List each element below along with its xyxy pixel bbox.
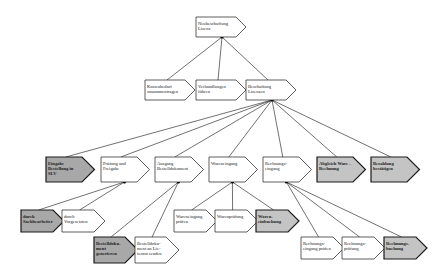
node-label-line: Bestelldokument [157, 166, 189, 171]
connector-ausgang-bestelldok_gen [111, 182, 178, 237]
node-label-line: Bestelldoku- [137, 241, 161, 246]
connector-beschaff-bezahlung [272, 100, 391, 157]
node-label-line: Waren- [258, 214, 273, 219]
function-tree-diagram: NeubeschaffungLizenzKostenbedarfzusammen… [0, 0, 445, 268]
node-re_pruefung[interactable]: Rechnungs-prüfung [342, 237, 385, 259]
connector-rechnungseingang-re_pruefung [286, 182, 359, 237]
node-label-line: Vorgesetzten [64, 219, 88, 224]
node-label-line: Neubeschaffung [198, 21, 229, 26]
node-root[interactable]: NeubeschaffungLizenz [196, 17, 246, 37]
node-label-line: durch [23, 214, 35, 219]
node-label-line: SLV [48, 171, 57, 176]
connector-beschaff-wareneingang [229, 100, 272, 157]
node-label-line: buchung [386, 246, 404, 251]
connector-beschaff-eingabe [66, 100, 272, 157]
node-label-line: Wareneingang [176, 214, 203, 219]
node-label-line: Warenprüfung [217, 214, 244, 219]
node-ausgang[interactable]: AusgangBestelldokument [155, 157, 204, 182]
node-label-line: Eingabe [48, 161, 64, 166]
node-label-line: generieren [96, 251, 117, 256]
node-label-line: Wareneingang [211, 161, 238, 166]
connector-root-verhand [218, 37, 222, 80]
node-label-line: führen [198, 89, 211, 94]
connector-beschaff-abgleich [272, 100, 337, 157]
connector-pruefung-vorgesetzten [80, 182, 125, 210]
node-label-line: Lizenz [198, 26, 211, 31]
connector-lines [39, 35, 402, 237]
node-bestelldok_send[interactable]: Bestelldoku-ment an Lie-ferant senden [135, 237, 179, 263]
diagram-nodes: NeubeschaffungLizenzKostenbedarfzusammen… [21, 17, 427, 263]
connector-root-kosten [167, 37, 222, 80]
connector-beschaff-rechnungseingang [272, 100, 283, 157]
node-kosten[interactable]: Kostenbedarfzusammentragen [145, 80, 195, 100]
node-label-line: ment an Lie- [137, 246, 161, 251]
node-label-line: ment [96, 246, 106, 251]
node-re_buchung[interactable]: Rechnungs-buchung [384, 237, 427, 259]
node-label-line: bestätigen [373, 166, 393, 171]
node-label-line: prüfung [344, 246, 359, 251]
node-rechnungseingang[interactable]: Rechnungs-eingang [263, 157, 312, 182]
node-label-line: prüfen [176, 219, 189, 224]
node-label-line: Ausgang [157, 161, 174, 166]
node-wareneingang[interactable]: Wareneingang [209, 157, 258, 182]
node-label-line: Rechnungs- [265, 161, 287, 166]
node-beschaff[interactable]: BeschaffungLizenzen [246, 80, 296, 100]
node-label-line: einbuchung [258, 219, 282, 224]
node-verhand[interactable]: Verhandlungenführen [196, 80, 246, 100]
node-vorgesetzten[interactable]: durchVorgesetzten [62, 210, 105, 232]
node-label-line: Rechnungs- [344, 241, 366, 246]
node-label-line: Freigabe [103, 166, 119, 171]
node-label-line: Abgleich Ware - [319, 161, 351, 166]
node-warenbuchung[interactable]: Waren-einbuchung [256, 210, 299, 232]
node-label-line: Bestelldoku- [96, 241, 121, 246]
node-bezahlung[interactable]: Bezahlungbestätigen [371, 157, 420, 182]
node-we_pruefen[interactable]: Wareneingangprüfen [174, 210, 217, 232]
node-label-line: eingang [265, 166, 280, 171]
connector-root-beschaff [222, 37, 268, 80]
node-re_pruefen[interactable]: Rechnungs-eingang prüfen [301, 237, 344, 259]
node-label-line: Rechnungs- [303, 241, 325, 246]
node-label-line: Rechnung [319, 166, 340, 171]
connector-rechnungseingang-re_buchung [286, 182, 401, 237]
node-label-line: Bestellung in [48, 166, 74, 171]
node-sachbearbeiter[interactable]: durchSachbearbeiter [21, 210, 64, 232]
node-label-line: zusammentragen [147, 89, 179, 94]
node-label-line: ferant senden [137, 251, 162, 256]
node-label-line: Bezahlung [373, 161, 394, 166]
node-pruefung[interactable]: Prüfung undFreigabe [101, 157, 150, 182]
node-eingabe[interactable]: EingabeBestellung inSLV [46, 157, 95, 182]
node-bestelldok_gen[interactable]: Bestelldoku-mentgenerieren [94, 237, 138, 263]
connector-pruefung-sachbearbeiter [39, 182, 125, 210]
node-label-line: durch [64, 214, 75, 219]
node-label-line: Prüfung und [103, 161, 127, 166]
node-warenpruefung[interactable]: Warenprüfung [215, 210, 258, 232]
node-abgleich[interactable]: Abgleich Ware -Rechnung [317, 157, 366, 182]
connector-wareneingang-warenbuchung [232, 182, 273, 210]
node-label-line: Verhandlungen [198, 84, 227, 89]
connector-wareneingang-we_pruefen [192, 182, 233, 210]
node-label-line: Rechnungs- [386, 241, 410, 246]
node-label-line: Lizenzen [248, 89, 266, 94]
node-label-line: eingang prüfen [303, 246, 331, 251]
node-label-line: Beschaffung [248, 84, 272, 89]
connector-beschaff-ausgang [175, 100, 272, 157]
connector-beschaff-pruefung [121, 100, 272, 157]
node-label-line: Sachbearbeiter [23, 219, 53, 224]
node-label-line: Kostenbedarf [147, 84, 172, 89]
